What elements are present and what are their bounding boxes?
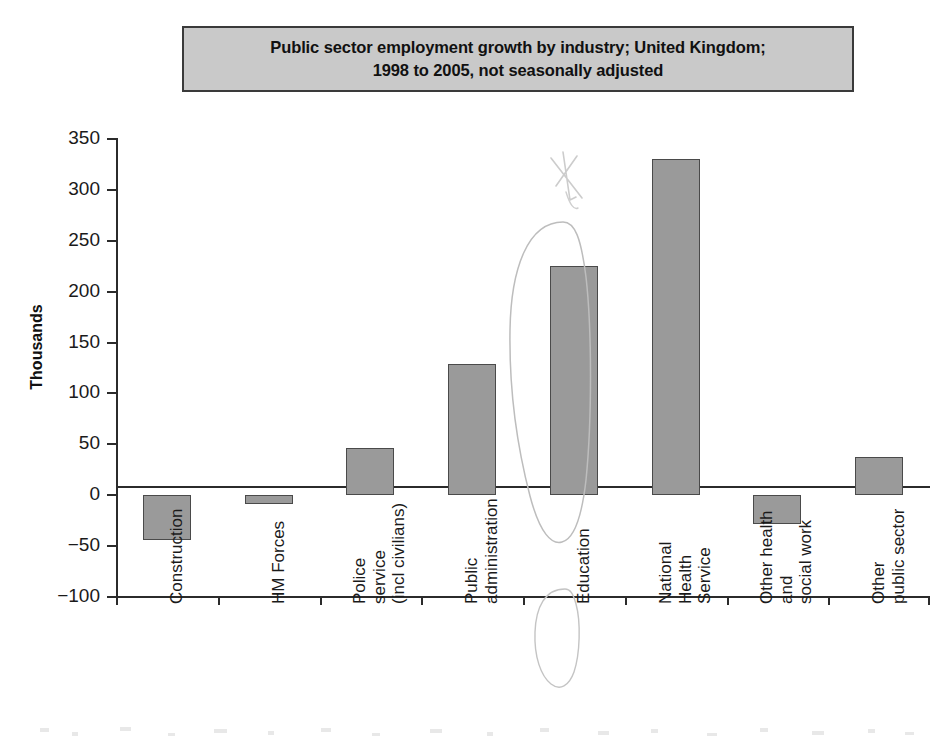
y-axis-tick-label: 100 xyxy=(30,381,100,403)
x-axis-category-text: Education xyxy=(574,464,594,604)
y-axis-tick-label: −100 xyxy=(30,585,100,607)
y-axis-line xyxy=(116,138,118,598)
x-axis-category-text: Police service (incl civilians) xyxy=(350,464,409,604)
y-axis-tick-label: 300 xyxy=(30,178,100,200)
y-axis-tick: −50 xyxy=(107,545,116,547)
y-axis-tick: 50 xyxy=(107,443,116,445)
y-axis-tick: 0 xyxy=(107,494,116,496)
chart-title-box: Public sector employment growth by indus… xyxy=(182,26,854,92)
y-axis-tick-label: −50 xyxy=(30,534,100,556)
y-axis-tick-label: 0 xyxy=(30,483,100,505)
scan-artifacts xyxy=(0,718,948,749)
bar xyxy=(652,159,700,495)
x-axis-category-text: Other public sector xyxy=(869,464,908,604)
x-axis-category-text: Other health and social work xyxy=(757,464,816,604)
y-axis-tick-label: 250 xyxy=(30,229,100,251)
y-axis-tick-label: 150 xyxy=(30,331,100,353)
y-axis-tick-label: 200 xyxy=(30,280,100,302)
y-axis-tick: 200 xyxy=(107,291,116,293)
y-axis-tick-label: 350 xyxy=(30,127,100,149)
x-axis-category-text: Public administration xyxy=(462,464,501,604)
y-axis-tick: 300 xyxy=(107,189,116,191)
x-axis-category-text: Construction xyxy=(167,464,187,604)
y-axis-tick: −100 xyxy=(107,596,116,598)
y-axis-tick: 350 xyxy=(107,138,116,140)
x-axis-category-text: National Health Service xyxy=(656,464,715,604)
chart-figure: Public sector employment growth by indus… xyxy=(0,0,948,749)
y-axis-tick-label: 50 xyxy=(30,432,100,454)
y-axis-tick: 250 xyxy=(107,240,116,242)
y-axis-tick: 150 xyxy=(107,342,116,344)
page-title: Public sector employment growth by indus… xyxy=(264,36,771,83)
x-axis-category-text: HM Forces xyxy=(269,464,289,604)
bar xyxy=(550,266,598,495)
y-axis-tick: 100 xyxy=(107,392,116,394)
